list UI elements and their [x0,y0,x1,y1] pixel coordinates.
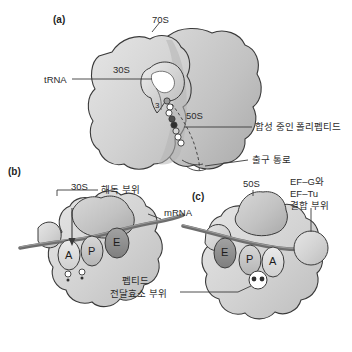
panel-b-site-a-letter: A [65,249,72,261]
panel-a-artwork [72,22,261,171]
panel-c-peptidyl-transferase-label-line2: 전달효소 부위 [110,288,167,300]
panel-c-label: (c) [192,191,204,203]
panel-a-50s-label: 50S [186,110,203,122]
panel-b-label: (b) [8,166,21,178]
panel-a-70s-label: 70S [152,14,169,26]
panel-c-central-protuberance [235,192,287,236]
panel-c-factor-binding-label-line1: EF–G와 [290,176,324,188]
panel-b-site-e-letter: E [113,236,120,248]
panel-c-site-a-letter: A [269,255,276,267]
panel-c-50s-label: 50S [243,178,260,190]
panel-c-factor-binding-label-line3: 결합 부위 [290,200,329,212]
panel-a-exit-tunnel-label: 출구 통로 [252,154,291,166]
panel-c-site-p-letter: P [246,253,253,265]
panel-b-mrna-label: mRNA [164,207,192,219]
panel-a-trna-label: tRNA [44,74,67,86]
panel-b-site-p-letter: P [88,245,95,257]
panel-a-trna-3prime-label: 3 [155,101,159,110]
panel-b-decoding-site-label: 해독 부위 [101,184,140,196]
panel-c-factor-binding-label-line2: EF–Tu [290,188,318,200]
panel-c-ptc-bead-left [252,277,257,282]
panel-c-peptidyl-transferase-center [249,271,267,289]
panel-a-30s-label: 30S [113,64,130,76]
panel-a-nascent-polypeptide-label: 합성 중인 폴리펩티드 [255,121,341,133]
ribosome-figure: (a) 70S tRNA 30S 50S 3 합성 중인 폴리펩티드 출구 통로… [0,0,352,352]
panel-c-factor-binding-site [294,231,328,265]
panel-c-peptidyl-transferase-label-line1: 펩티드 [122,275,149,287]
panel-c-site-e-letter: E [221,246,228,258]
panel-a-label: (a) [53,14,65,26]
panel-b-30s-label: 30S [71,181,88,193]
panel-c-ptc-bead-right [260,277,265,282]
